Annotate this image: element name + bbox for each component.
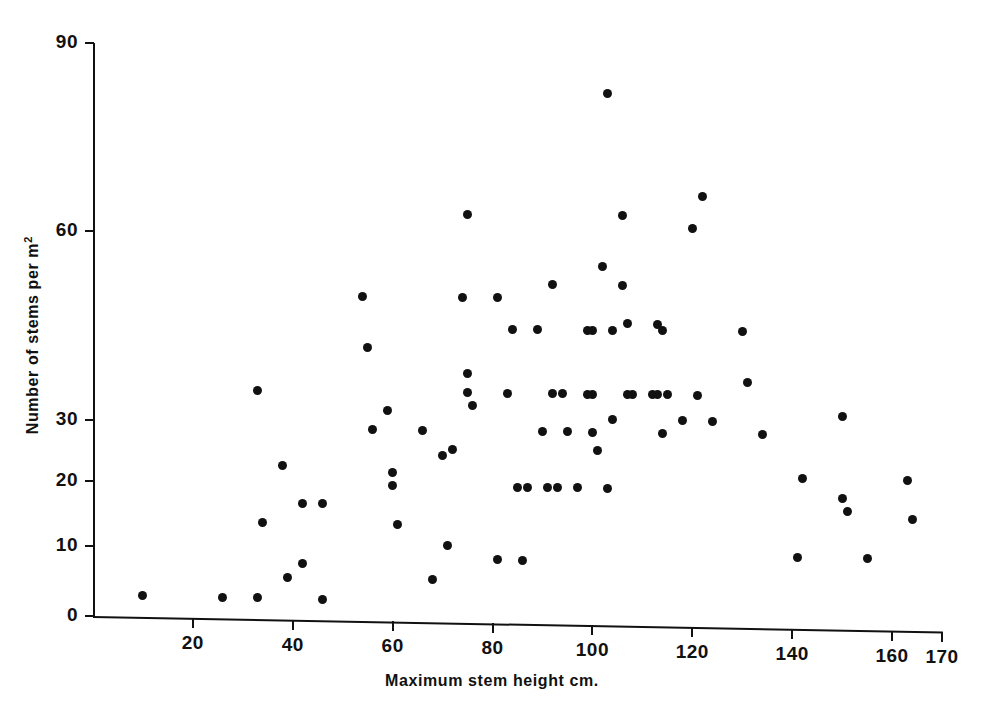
data-point <box>758 430 767 439</box>
data-points-layer <box>0 0 984 711</box>
data-point <box>698 192 707 201</box>
data-point <box>298 559 307 568</box>
data-point <box>508 325 517 334</box>
data-point <box>663 390 672 399</box>
data-point <box>388 468 397 477</box>
data-point <box>428 575 437 584</box>
data-point <box>518 556 527 565</box>
data-point <box>548 389 557 398</box>
data-point <box>358 292 367 301</box>
data-point <box>503 389 512 398</box>
data-point <box>218 593 227 602</box>
data-point <box>843 507 852 516</box>
data-point <box>493 293 502 302</box>
data-point <box>708 417 717 426</box>
data-point <box>363 343 372 352</box>
data-point <box>838 412 847 421</box>
data-point <box>533 325 542 334</box>
data-point <box>418 426 427 435</box>
data-point <box>678 416 687 425</box>
data-point <box>538 427 547 436</box>
data-point <box>493 555 502 564</box>
data-point <box>603 89 612 98</box>
data-point <box>458 293 467 302</box>
data-point <box>463 388 472 397</box>
data-point <box>618 211 627 220</box>
y-axis-title: Number of stems per m2 <box>22 185 42 485</box>
data-point <box>593 446 602 455</box>
data-point <box>443 541 452 550</box>
data-point <box>603 484 612 493</box>
data-point <box>258 518 267 527</box>
y-axis-title-text: Number of stems per m <box>24 243 41 434</box>
data-point <box>688 224 697 233</box>
data-point <box>693 391 702 400</box>
data-point <box>903 476 912 485</box>
data-point <box>253 593 262 602</box>
data-point <box>513 483 522 492</box>
data-point <box>588 428 597 437</box>
data-point <box>608 415 617 424</box>
data-point <box>863 554 872 563</box>
data-point <box>618 281 627 290</box>
data-point <box>598 262 607 271</box>
data-point <box>448 445 457 454</box>
data-point <box>548 280 557 289</box>
data-point <box>368 425 377 434</box>
data-point <box>463 210 472 219</box>
data-point <box>838 494 847 503</box>
data-point <box>438 451 447 460</box>
data-point <box>738 327 747 336</box>
data-point <box>283 573 292 582</box>
data-point <box>383 406 392 415</box>
data-point <box>628 390 637 399</box>
data-point <box>608 326 617 335</box>
data-point <box>543 483 552 492</box>
data-point <box>278 461 287 470</box>
x-axis-title: Maximum stem height cm. <box>0 672 984 690</box>
data-point <box>558 389 567 398</box>
data-point <box>523 483 532 492</box>
data-point <box>253 386 262 395</box>
data-point <box>588 390 597 399</box>
data-point <box>553 483 562 492</box>
data-point <box>573 483 582 492</box>
data-point <box>798 474 807 483</box>
data-point <box>563 427 572 436</box>
data-point <box>658 326 667 335</box>
data-point <box>388 481 397 490</box>
data-point <box>138 591 147 600</box>
data-point <box>318 499 327 508</box>
data-point <box>588 326 597 335</box>
data-point <box>463 369 472 378</box>
data-point <box>318 595 327 604</box>
data-point <box>793 553 802 562</box>
data-point <box>658 429 667 438</box>
data-point <box>298 499 307 508</box>
data-point <box>908 515 917 524</box>
data-point <box>743 378 752 387</box>
y-axis-title-superscript: 2 <box>22 236 34 243</box>
data-point <box>393 520 402 529</box>
data-point <box>468 401 477 410</box>
data-point <box>653 390 662 399</box>
data-point <box>623 319 632 328</box>
scatter-plot-figure: 01020306090 20406080100120140160170 Numb… <box>0 0 984 711</box>
